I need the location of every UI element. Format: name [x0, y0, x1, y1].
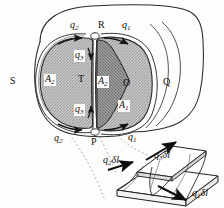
label-q3-bottom: q3 — [74, 104, 85, 116]
label-q1-bottom: q1 — [128, 132, 137, 144]
label-area-A2-dark: A2 — [97, 76, 109, 88]
label-area-A1: A1 — [118, 100, 130, 112]
label-point-O: O — [123, 78, 130, 88]
label-q3-top: q3 — [74, 50, 85, 62]
label-area-A2-left: A2 — [44, 74, 56, 86]
label-q1-dl: q1δl — [192, 188, 208, 200]
label-q2-dl: q2δl — [103, 155, 119, 167]
label-q2-top: q2 — [70, 20, 79, 32]
label-q1-top: q1 — [122, 20, 131, 32]
label-point-S: S — [10, 76, 16, 86]
label-point-Q: Q — [163, 77, 170, 87]
label-point-P: P — [91, 137, 97, 147]
label-q3-dl: q3δl — [154, 150, 170, 162]
label-q2-bottom: q2 — [54, 133, 63, 145]
label-point-R: R — [98, 20, 105, 30]
figure-canvas: q2 R q1 q3 q3 A2 T A2 O A1 S Q q2 P q1 q… — [0, 0, 224, 208]
figure-drawing — [0, 0, 224, 208]
label-point-T: T — [78, 74, 84, 84]
